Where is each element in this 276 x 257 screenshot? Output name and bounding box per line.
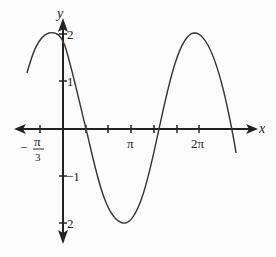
x-tick-label-2pi: 2π [191,136,205,151]
graph-figure: y x 2 1 −1 2 − π 3 π 2π [0,0,276,257]
svg-text:3: 3 [35,151,41,163]
y-axis-label: y [55,6,64,21]
y-tick-label-neg1: −1 [66,169,80,184]
svg-text:−: − [20,140,27,155]
graph-canvas: y x 2 1 −1 2 − π 3 π 2π [0,0,276,257]
y-tick-label-1: 1 [67,74,74,89]
svg-text:π: π [34,134,41,149]
y-tick-label-neg2: 2 [67,216,74,231]
y-tick-label-2: 2 [67,27,74,42]
x-tick-label-pi: π [127,136,134,151]
x-tick-label-neg-pi-over-3: − π 3 [20,134,44,163]
x-axis-label: x [258,121,266,136]
x-axis [14,124,258,134]
